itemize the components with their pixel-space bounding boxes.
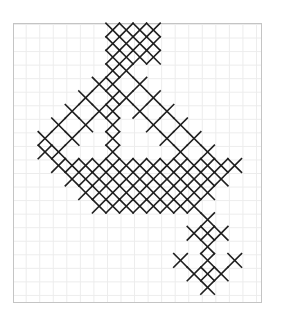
cross-stitch-icon	[106, 77, 120, 91]
cross-stitch-icon	[174, 254, 188, 268]
cross-stitch-icon	[147, 50, 161, 64]
cross-stitch-icon	[187, 199, 201, 213]
cross-stitch-icon	[106, 91, 120, 105]
cross-stitch-icon	[52, 145, 66, 159]
cross-stitch-icon	[92, 159, 106, 173]
cross-stitch-icon	[106, 186, 120, 200]
cross-stitch-icon	[201, 172, 215, 186]
cross-stitch-icon	[201, 240, 215, 254]
cross-stitch-icon	[214, 159, 228, 173]
cross-stitch-icon	[52, 118, 66, 132]
cross-stitch-icon	[133, 186, 147, 200]
cross-stitch-icon	[160, 172, 174, 186]
cross-stitch-icon	[174, 199, 188, 213]
cross-stitch-icon	[120, 23, 134, 37]
cross-stitch-icon	[120, 50, 134, 64]
cross-stitch-icon	[201, 145, 215, 159]
cross-stitch-icon	[120, 172, 134, 186]
cross-stitch-icon	[106, 64, 120, 78]
cross-stitch-icon	[160, 199, 174, 213]
cross-stitch-icon	[147, 37, 161, 51]
cross-stitch-icon	[92, 186, 106, 200]
cross-stitch-icon	[201, 281, 215, 295]
cross-stitch-icon	[106, 145, 120, 159]
cross-stitch-icon	[147, 159, 161, 173]
cross-stitch-icon	[106, 118, 120, 132]
cross-stitch-icon	[160, 132, 174, 146]
cross-stitch-icon	[187, 132, 201, 146]
cross-stitch-icon	[133, 172, 147, 186]
cross-stitch-icon	[106, 172, 120, 186]
cross-stitch-icon	[187, 159, 201, 173]
cross-stitch-icon	[133, 159, 147, 173]
cross-stitch-icon	[214, 172, 228, 186]
cross-stitch-icon	[133, 199, 147, 213]
cross-stitch-icon	[147, 118, 161, 132]
cross-stitch-icon	[174, 145, 188, 159]
cross-stitch-icon	[160, 159, 174, 173]
cross-stitch-icon	[65, 105, 79, 119]
cross-stitch-icon	[133, 50, 147, 64]
stitch-layer	[0, 0, 281, 312]
cross-stitch-icon	[65, 132, 79, 146]
cross-stitch-icon	[79, 172, 93, 186]
cross-stitch-icon	[147, 172, 161, 186]
cross-stitch-icon	[92, 199, 106, 213]
cross-stitch-icon	[92, 172, 106, 186]
cross-stitch-icon	[160, 186, 174, 200]
cross-stitch-icon	[147, 91, 161, 105]
cross-stitch-icon	[79, 186, 93, 200]
cross-stitch-icon	[214, 267, 228, 281]
cross-stitch-icon	[201, 254, 215, 268]
cross-stitch-icon	[187, 186, 201, 200]
cross-stitch-icon	[79, 159, 93, 173]
cross-stitch-icon	[187, 267, 201, 281]
cross-stitch-icon	[187, 226, 201, 240]
cross-stitch-icon	[92, 105, 106, 119]
cross-stitch-icon	[174, 159, 188, 173]
cross-stitch-icon	[147, 186, 161, 200]
cross-stitch-icon	[120, 186, 134, 200]
cross-stitch-icon	[120, 64, 134, 78]
cross-stitch-icon	[79, 118, 93, 132]
cross-stitch-icon	[106, 23, 120, 37]
cross-stitch-icon	[201, 267, 215, 281]
cross-stitch-icon	[106, 105, 120, 119]
cross-stitch-icon	[201, 213, 215, 227]
cross-stitch-icon	[201, 159, 215, 173]
cross-stitch-icon	[106, 159, 120, 173]
cross-stitch-icon	[133, 23, 147, 37]
cross-stitch-icon	[106, 132, 120, 146]
cross-stitch-icon	[228, 254, 242, 268]
cross-stitch-icon	[133, 37, 147, 51]
cross-stitch-icon	[228, 159, 242, 173]
cross-stitch-icon	[174, 118, 188, 132]
cross-stitch-icon	[201, 226, 215, 240]
cross-stitch-icon	[201, 186, 215, 200]
cross-stitch-icon	[120, 91, 134, 105]
cross-stitch-icon	[52, 159, 66, 173]
cross-stitch-icon	[106, 199, 120, 213]
cross-stitch-icon	[147, 23, 161, 37]
cross-stitch-icon	[187, 172, 201, 186]
cross-stitch-icon	[120, 37, 134, 51]
cross-stitch-icon	[92, 77, 106, 91]
cross-stitch-icon	[160, 105, 174, 119]
cross-stitch-icon	[174, 172, 188, 186]
cross-stitch-icon	[147, 199, 161, 213]
cross-stitch-icon	[65, 159, 79, 173]
cross-stitch-icon	[133, 77, 147, 91]
cross-stitch-icon	[214, 226, 228, 240]
cross-stitch-icon	[120, 159, 134, 173]
cross-stitch-icon	[38, 145, 52, 159]
cross-stitch-icon	[174, 186, 188, 200]
cross-stitch-icon	[79, 91, 93, 105]
cross-stitch-icon	[65, 172, 79, 186]
cross-stitch-icon	[133, 105, 147, 119]
cross-stitch-icon	[106, 50, 120, 64]
cross-stitch-icon	[38, 132, 52, 146]
cross-stitch-icon	[106, 37, 120, 51]
cross-stitch-icon	[120, 199, 134, 213]
